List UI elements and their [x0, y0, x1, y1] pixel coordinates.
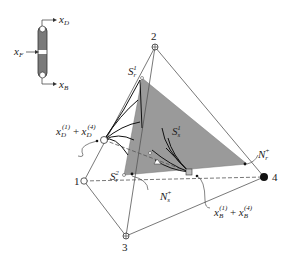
label-ns: Ns+ — [159, 189, 172, 204]
column-top-label: xD — [58, 13, 69, 27]
label-nr: Nr+ — [257, 147, 270, 162]
label-ss1: Ss1 — [172, 124, 181, 139]
label-xd-sum: xD(1)+xD(4) — [55, 123, 96, 139]
vertex-3-label: 3 — [122, 241, 128, 253]
distillation-tetrahedron-diagram: xD xB xF — [0, 0, 291, 261]
vertex-4-label: 4 — [272, 171, 278, 183]
distillate-node — [101, 137, 108, 144]
distillation-column — [26, 18, 57, 86]
label-xb-sum: xB(1)+xB(4) — [213, 204, 253, 220]
vertex-1-marker — [81, 178, 87, 184]
vertex-2-label: 2 — [151, 30, 157, 42]
bottoms-node — [186, 169, 192, 175]
vertex-1-label: 1 — [74, 175, 80, 187]
label-sr2: Sr2 — [110, 169, 119, 184]
vertex-4-marker — [260, 173, 268, 181]
column-feed-label: xF — [13, 45, 24, 59]
label-sr1: Sr1 — [128, 64, 137, 79]
column-bottom-label: xB — [58, 78, 69, 92]
